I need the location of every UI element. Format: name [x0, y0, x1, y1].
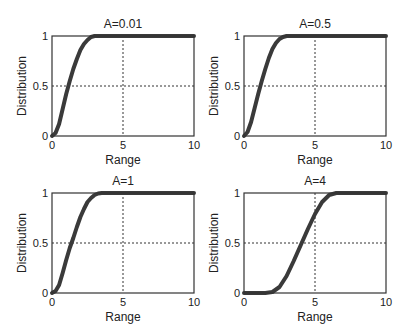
- x-tick-label: 5: [120, 139, 126, 151]
- x-tick-label: 10: [380, 296, 392, 308]
- y-axis-label: Distribution: [15, 56, 29, 116]
- y-tick-label: 0: [42, 287, 48, 299]
- y-tick-label: 0.5: [225, 80, 240, 92]
- x-axis-label: Range: [297, 153, 333, 167]
- chart-panel-3: A=1051000.51RangeDistribution: [15, 174, 200, 324]
- panel-title: A=0.5: [299, 17, 331, 31]
- x-axis-label: Range: [297, 310, 333, 324]
- x-tick-label: 5: [312, 139, 318, 151]
- chart-panel-4: A=4051000.51RangeDistribution: [207, 174, 392, 324]
- chart-panel-1: A=0.01051000.51RangeDistribution: [15, 17, 200, 167]
- y-tick-label: 0.5: [33, 237, 48, 249]
- y-tick-label: 1: [42, 187, 48, 199]
- y-tick-label: 0: [234, 287, 240, 299]
- y-tick-label: 0: [234, 130, 240, 142]
- x-tick-label: 0: [241, 139, 247, 151]
- y-tick-label: 0.5: [225, 237, 240, 249]
- x-tick-label: 5: [120, 296, 126, 308]
- y-axis-label: Distribution: [207, 213, 221, 273]
- x-tick-label: 10: [188, 296, 200, 308]
- x-axis-label: Range: [105, 310, 141, 324]
- panel-title: A=1: [112, 174, 134, 188]
- figure-canvas: A=0.01051000.51RangeDistributionA=0.5051…: [0, 0, 406, 336]
- panel-title: A=0.01: [104, 17, 143, 31]
- x-tick-label: 10: [380, 139, 392, 151]
- x-tick-label: 0: [241, 296, 247, 308]
- y-tick-label: 0.5: [33, 80, 48, 92]
- y-tick-label: 1: [234, 30, 240, 42]
- y-tick-label: 1: [42, 30, 48, 42]
- y-axis-label: Distribution: [15, 213, 29, 273]
- y-tick-label: 0: [42, 130, 48, 142]
- x-axis-label: Range: [105, 153, 141, 167]
- y-axis-label: Distribution: [207, 56, 221, 116]
- chart-panel-2: A=0.5051000.51RangeDistribution: [207, 17, 392, 167]
- x-tick-label: 10: [188, 139, 200, 151]
- x-tick-label: 0: [49, 296, 55, 308]
- y-tick-label: 1: [234, 187, 240, 199]
- panel-title: A=4: [304, 174, 326, 188]
- x-tick-label: 0: [49, 139, 55, 151]
- x-tick-label: 5: [312, 296, 318, 308]
